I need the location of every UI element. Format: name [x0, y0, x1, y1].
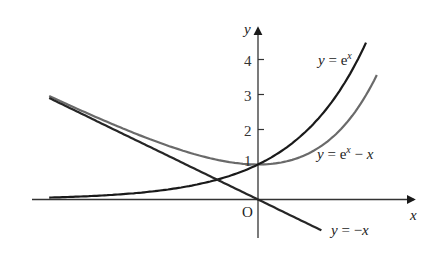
y-tick-label-1: 1	[244, 154, 252, 169]
origin-label: O	[242, 205, 253, 220]
y-tick-label-3: 3	[244, 89, 252, 104]
curve-neg-x	[49, 98, 321, 230]
y-tick-label-2: 2	[244, 124, 252, 139]
label-exp-minus-x: y = ex − x	[317, 145, 373, 162]
plot-area	[0, 0, 436, 253]
label-exp: y = ex	[318, 51, 352, 68]
y-axis-label: y	[244, 22, 251, 37]
label-neg-x: y = −x	[331, 223, 369, 238]
x-axis-label: x	[410, 208, 417, 223]
y-tick-label-4: 4	[244, 54, 252, 69]
y-ticks	[258, 60, 264, 165]
